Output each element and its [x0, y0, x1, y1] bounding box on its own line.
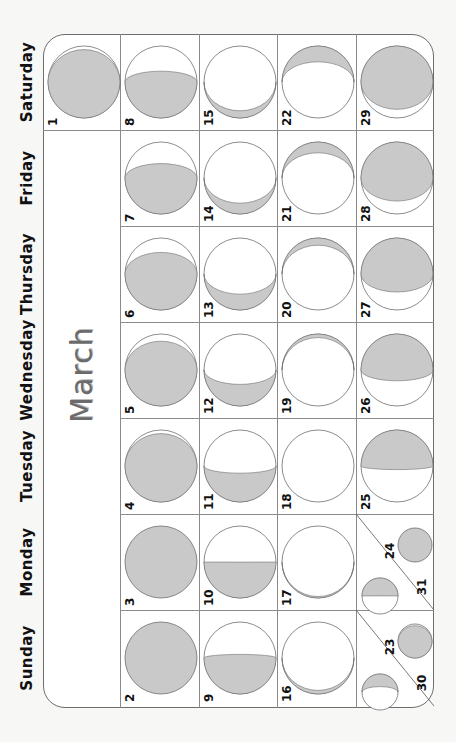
day-number: 16: [280, 685, 294, 702]
day-cell: 8: [120, 34, 198, 130]
day-cell: 17: [277, 514, 355, 610]
day-number: 30: [415, 675, 429, 692]
day-number: 3: [123, 598, 137, 606]
day-number: 28: [359, 205, 373, 222]
day-cell: 5: [120, 322, 198, 418]
day-number: 4: [123, 502, 137, 510]
weekday-label-sunday: Sunday: [12, 610, 42, 706]
day-cell: 27: [356, 226, 434, 322]
day-cell: 20: [277, 226, 355, 322]
weekday-label-thursday: Thursday: [12, 226, 42, 322]
day-number: 5: [123, 406, 137, 414]
day-cell: 22: [277, 34, 355, 130]
day-number: 2: [123, 694, 137, 702]
day-cell: 2: [120, 610, 198, 706]
day-cell: 18: [277, 418, 355, 514]
day-number: 13: [202, 301, 216, 318]
day-cell: 19: [277, 322, 355, 418]
day-cell: 3: [120, 514, 198, 610]
day-number: 14: [202, 205, 216, 222]
day-cell: 12: [199, 322, 277, 418]
day-number: 9: [202, 694, 216, 702]
day-number: 21: [280, 205, 294, 222]
day-cell: 7: [120, 130, 198, 226]
day-number: 12: [202, 397, 216, 414]
day-number: 7: [123, 214, 137, 222]
day-number: 31: [415, 579, 429, 596]
day-number: 19: [280, 397, 294, 414]
day-number: 20: [280, 301, 294, 318]
day-cell: 4: [120, 418, 198, 514]
day-number: 29: [359, 109, 373, 126]
day-cell: 29: [356, 34, 434, 130]
day-number: 25: [359, 493, 373, 510]
day-number: 6: [123, 310, 137, 318]
day-cell: 15: [199, 34, 277, 130]
day-number: 27: [359, 301, 373, 318]
day-number: 10: [202, 589, 216, 606]
day-cell: 14: [199, 130, 277, 226]
weekday-label-wednesday: Wednesday: [12, 322, 42, 418]
day-number: 8: [123, 118, 137, 126]
day-cell: 10: [199, 514, 277, 610]
day-cell: 26: [356, 322, 434, 418]
day-number: 11: [202, 493, 216, 510]
day-cell: 2431: [356, 514, 434, 610]
month-title: March: [64, 327, 99, 423]
day-number: 15: [202, 109, 216, 126]
day-cell: 2330: [356, 610, 434, 706]
weekday-label-tuesday: Tuesday: [12, 418, 42, 514]
day-cell: 25: [356, 418, 434, 514]
day-number: 17: [280, 589, 294, 606]
day-cell: 9: [199, 610, 277, 706]
weekday-label-saturday: Saturday: [12, 34, 42, 130]
weekday-label-monday: Monday: [12, 514, 42, 610]
day-cell: 16: [277, 610, 355, 706]
day-cell: 21: [277, 130, 355, 226]
day-number: 26: [359, 397, 373, 414]
day-cell: 1: [43, 34, 121, 130]
day-cell: 28: [356, 130, 434, 226]
day-cell: 6: [120, 226, 198, 322]
day-number: 1: [46, 118, 60, 126]
day-cell: 11: [199, 418, 277, 514]
day-number: 22: [280, 109, 294, 126]
day-cell: 13: [199, 226, 277, 322]
day-number: 18: [280, 493, 294, 510]
weekday-label-friday: Friday: [12, 130, 42, 226]
